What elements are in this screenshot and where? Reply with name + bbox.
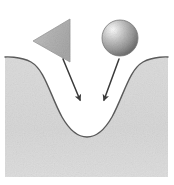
figure-container: Objects falling into a potential well A … xyxy=(0,0,174,185)
sphere-shape xyxy=(102,20,138,56)
diagram-canvas xyxy=(0,0,174,185)
sphere-object xyxy=(102,20,138,56)
